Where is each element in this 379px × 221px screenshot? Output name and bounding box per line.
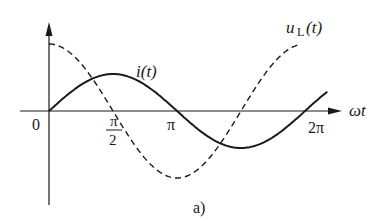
svg-text:π: π bbox=[110, 113, 118, 129]
svg-text:(t): (t) bbox=[306, 18, 322, 37]
inductor-voltage-label: u L (t) bbox=[286, 18, 322, 39]
tick-pi-half: π 2 bbox=[106, 113, 122, 148]
origin-label: 0 bbox=[32, 116, 40, 133]
svg-text:L: L bbox=[297, 25, 304, 39]
x-axis-label: ωt bbox=[349, 101, 367, 120]
x-axis-arrow-icon bbox=[328, 108, 342, 115]
sinusoid-diagram: 0 π 2 π 2π ωt i(t) u L (t) a) bbox=[0, 0, 379, 221]
current-label: i(t) bbox=[136, 62, 157, 81]
y-axis-arrow-icon bbox=[46, 22, 53, 36]
tick-2pi: 2π bbox=[308, 119, 324, 136]
tick-pi: π bbox=[167, 116, 175, 133]
svg-text:u: u bbox=[286, 18, 295, 37]
figure-caption: a) bbox=[193, 199, 205, 217]
svg-text:2: 2 bbox=[109, 132, 117, 148]
